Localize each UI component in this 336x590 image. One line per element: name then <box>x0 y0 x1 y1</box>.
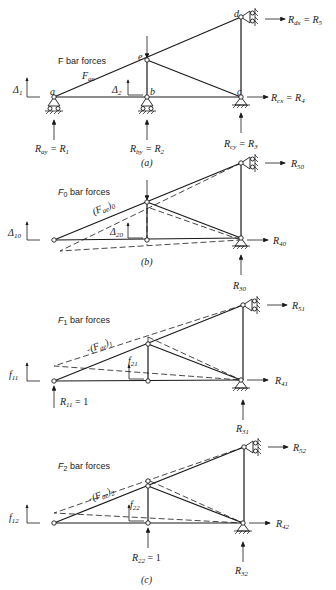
bar-ec <box>147 60 241 97</box>
reaction-label-31: R31 <box>235 423 249 436</box>
f11-label: f11 <box>9 369 18 382</box>
reaction-label-cy: Rcy = R3 <box>223 138 258 151</box>
reaction-label-42: R42 <box>275 518 290 531</box>
reaction-label-ay: Ray = R1 <box>34 143 69 156</box>
delta-2-indicator: Δ2 <box>111 80 143 97</box>
reaction-label-40: R40 <box>272 235 287 248</box>
f12-label: f12 <box>9 512 19 525</box>
caption-b: (b) <box>141 256 153 268</box>
delta-1-indicator: Δ1 <box>12 78 40 97</box>
panel-a-title: F bar forces <box>58 56 107 66</box>
reaction-label-cx: Rcx = R4 <box>270 92 305 105</box>
member-force-label: Fae <box>81 70 95 83</box>
reaction-label-30: R30 <box>232 280 247 293</box>
member-force-label-c2: -(Fae)2 <box>87 484 117 505</box>
f21-label: f21 <box>128 355 138 368</box>
panel-c1-title: F1 bar forces <box>58 315 110 326</box>
svg-text:Δ1: Δ1 <box>12 84 22 97</box>
panel-c2-title: F2 bar forces <box>58 461 110 472</box>
f11-arrow <box>27 363 40 381</box>
reaction-label-51: R51 <box>291 300 305 313</box>
node-e <box>145 58 149 62</box>
delta-20-arrow <box>128 223 143 238</box>
reaction-label-11: R11 = 1 <box>59 396 88 409</box>
reaction-label-dx: Rdx = R5 <box>287 14 323 27</box>
panel-b: F0 bar forces (Fae)0 Δ10 Δ20 R50 R40 R30… <box>7 154 305 293</box>
member-force-label-c1: -(Fae)1 <box>85 336 114 357</box>
node-label-a: a <box>50 86 55 97</box>
delta-10-arrow <box>27 222 40 240</box>
node-label-b: b <box>150 86 155 97</box>
node-label-c: c <box>237 86 242 97</box>
panel-b-title: F0 bar forces <box>58 187 110 198</box>
node-label-e: e <box>138 51 143 62</box>
node-d <box>239 15 243 19</box>
reaction-label-by: Rby = R2 <box>129 143 165 156</box>
svg-text:Δ2: Δ2 <box>111 84 122 97</box>
reaction-label-32: R32 <box>234 565 249 578</box>
f12-arrow <box>27 505 40 523</box>
reaction-label-41: R41 <box>274 375 288 388</box>
reaction-label-50: R50 <box>290 158 305 171</box>
panel-c-f1: F1 bar forces -(Fae)1 f11 f21 R51 R41 R3… <box>9 296 305 436</box>
reaction-label-52: R52 <box>292 442 307 455</box>
caption-c: (c) <box>141 574 153 586</box>
delta-10-label: Δ10 <box>7 227 21 240</box>
truss-diagram: a b c e d F bar forces Fae Δ1 Δ2 Ray = R… <box>0 0 336 590</box>
delta-20-label: Δ20 <box>109 226 123 239</box>
panel-a: a b c e d F bar forces Fae Δ1 Δ2 Ray = R… <box>12 8 323 169</box>
reaction-label-22: R22 = 1 <box>131 552 161 565</box>
caption-a: (a) <box>141 157 153 169</box>
panel-c-f2: F2 bar forces -(Fae)2 f12 f22 R52 R42 R3… <box>9 438 307 586</box>
node-b <box>145 95 149 99</box>
f22-label: f22 <box>130 499 140 512</box>
